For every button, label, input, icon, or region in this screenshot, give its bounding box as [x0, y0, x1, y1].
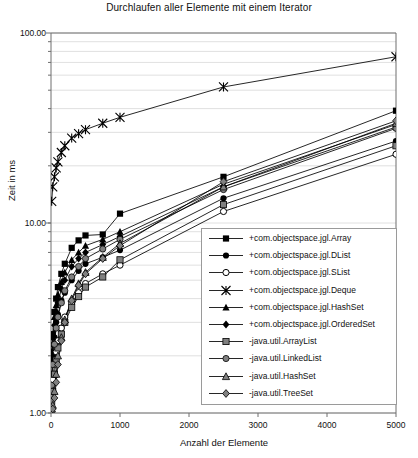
- data-marker-gray-square: [100, 274, 106, 280]
- data-marker-gray-square: [117, 257, 123, 263]
- m: [76, 293, 82, 299]
- legend-item[interactable]: +com.objectspace.jgl.OrderedSet: [202, 316, 398, 333]
- m: [393, 151, 399, 157]
- m: [47, 197, 56, 206]
- m: [69, 245, 75, 251]
- legend-item[interactable]: -java.util.TreeSet: [202, 385, 398, 402]
- data-marker-star: [53, 157, 62, 166]
- data-marker-filled-circle: [220, 195, 226, 201]
- m: [220, 195, 226, 201]
- m: [76, 263, 82, 269]
- legend-symbol: [206, 299, 246, 316]
- data-marker-gray-square: [82, 284, 88, 290]
- legend-symbol: [206, 385, 246, 402]
- m: [220, 201, 226, 207]
- m: [62, 261, 68, 267]
- legend-item[interactable]: -java.util.ArrayList: [202, 333, 398, 350]
- m: [223, 321, 230, 329]
- data-marker-star: [392, 52, 401, 61]
- chart-legend: +com.objectspace.jgl.Array+com.objectspa…: [201, 228, 397, 405]
- legend-label: -java.util.LinkedList: [249, 353, 321, 363]
- data-marker-gray-circle: [58, 300, 64, 306]
- data-marker-gray-circle: [76, 263, 82, 269]
- legend-item[interactable]: +com.objectspace.jgl.Array: [202, 230, 398, 247]
- legend-symbol: [206, 350, 246, 367]
- m: [82, 284, 88, 290]
- data-marker-gray-circle: [82, 255, 88, 261]
- m: [223, 235, 229, 241]
- x-tick-label: 5000: [376, 420, 416, 430]
- legend-marker-gray-circle-icon: [206, 350, 246, 367]
- data-marker-open-circle: [223, 270, 229, 276]
- legend-marker-star-icon: [206, 282, 246, 299]
- x-tick-label: 4000: [307, 420, 347, 430]
- legend-marker-gray-triangle-icon: [206, 368, 246, 385]
- legend-item[interactable]: -java.util.LinkedList: [202, 350, 398, 367]
- m: [82, 255, 88, 261]
- y-tick-label: 1.00: [2, 408, 46, 418]
- m: [223, 339, 229, 345]
- data-marker-filled-square: [117, 211, 123, 217]
- data-marker-gray-circle: [55, 314, 61, 320]
- legend-label: -java.util.ArrayList: [249, 336, 317, 346]
- data-marker-filled-square: [393, 108, 399, 114]
- legend-item[interactable]: +com.objectspace.jgl.Deque: [202, 282, 398, 299]
- data-marker-star: [47, 197, 56, 206]
- m: [58, 300, 64, 306]
- legend-item[interactable]: +com.objectspace.jgl.DList: [202, 247, 398, 264]
- data-marker-filled-square: [223, 235, 229, 241]
- m: [62, 288, 68, 294]
- m: [76, 237, 82, 243]
- data-marker-gray-circle: [62, 288, 68, 294]
- legend-label: -java.util.HashSet: [249, 371, 316, 381]
- legend-marker-open-circle-icon: [206, 264, 246, 281]
- m: [116, 113, 125, 122]
- legend-item[interactable]: +com.objectspace.jgl.SList: [202, 264, 398, 281]
- data-marker-filled-circle: [223, 253, 229, 259]
- data-marker-gray-square: [220, 201, 226, 207]
- x-tick-label: 0: [31, 420, 71, 430]
- chart-figure: Durchlaufen aller Elemente mit einem Ite…: [0, 0, 418, 458]
- data-marker-gray-circle: [51, 341, 57, 347]
- m: [393, 108, 399, 114]
- m: [223, 253, 229, 259]
- y-tick-label: 100.00: [2, 28, 46, 38]
- m: [60, 141, 69, 150]
- data-marker-filled-square: [62, 261, 68, 267]
- legend-label: +com.objectspace.jgl.Deque: [249, 285, 356, 295]
- x-tick-label: 2000: [169, 420, 209, 430]
- legend-symbol: [206, 316, 246, 333]
- m: [117, 211, 123, 217]
- m: [223, 270, 229, 276]
- legend-marker-gray-diamond-icon: [206, 385, 246, 402]
- m: [53, 157, 62, 166]
- data-marker-gray-circle: [69, 274, 75, 280]
- legend-symbol: [206, 282, 246, 299]
- data-marker-star: [98, 119, 107, 128]
- legend-label: +com.objectspace.jgl.DList: [249, 250, 350, 260]
- data-marker-gray-square: [76, 293, 82, 299]
- data-marker-star: [60, 141, 69, 150]
- m: [223, 356, 229, 362]
- legend-item[interactable]: -java.util.HashSet: [202, 368, 398, 385]
- x-tick-label: 3000: [238, 420, 278, 430]
- m: [51, 341, 57, 347]
- data-marker-star: [116, 113, 125, 122]
- x-tick-label: 1000: [100, 420, 140, 430]
- data-marker-gray-circle: [100, 246, 106, 252]
- data-marker-gray-square: [223, 339, 229, 345]
- data-marker-filled-square: [82, 232, 88, 238]
- data-marker-filled-diamond: [223, 321, 230, 329]
- data-marker-open-circle: [220, 208, 226, 214]
- legend-symbol: [206, 333, 246, 350]
- m: [82, 232, 88, 238]
- legend-marker-gray-square-icon: [206, 333, 246, 350]
- m: [220, 208, 226, 214]
- data-marker-gray-circle: [53, 325, 59, 331]
- m: [48, 182, 57, 191]
- legend-item[interactable]: +com.objectspace.jgl.HashSet: [202, 299, 398, 316]
- m: [53, 325, 59, 331]
- m: [392, 52, 401, 61]
- data-marker-star: [52, 163, 61, 172]
- data-marker-filled-square: [69, 245, 75, 251]
